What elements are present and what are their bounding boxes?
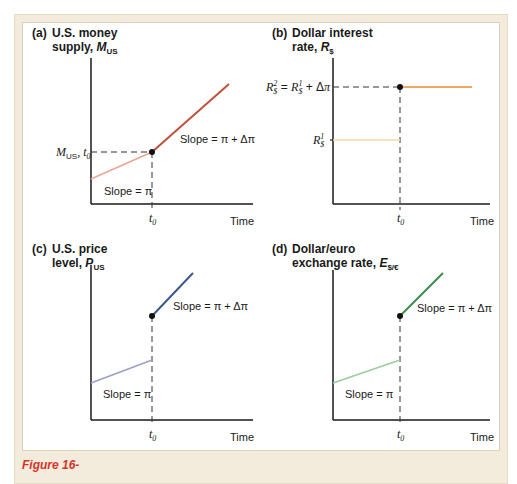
panel-b-t0-point [397,84,403,90]
panel-a-t0-point [149,149,155,155]
panel-c-slope-after-label: Slope = π + Δπ [173,300,249,312]
panel-b-x-label: Time [470,215,494,227]
panel-a-y-marker: MUS, t0 [55,145,90,161]
panel-c-price-level: (c) U.S. price level, PUS Slope = π + Δπ… [32,242,254,443]
panel-d-slope-before-label: Slope = π [345,388,394,400]
panel-a-slope-after-label: Slope = π + Δπ [180,133,256,145]
panel-d-x-tick-t0: t0 [397,427,404,443]
panel-a-slope-before-label: Slope = π [104,185,153,197]
panel-d-line-before [333,360,400,383]
panel-d-x-label: Time [470,431,494,443]
panel-c-x-label: Time [230,431,254,443]
panel-c-letter: (c) [32,242,47,256]
panel-a-x-label: Time [230,215,254,227]
panel-d-slope-after-label: Slope = π + Δπ [417,302,493,314]
panel-d-t0-point [397,313,403,319]
panel-b-title-line2: rate, R$ [292,40,334,56]
panel-d-title-line2: exchange rate, E$/€ [292,256,399,272]
panel-c-line-before [91,360,152,383]
panel-c-slope-before-label: Slope = π [103,388,152,400]
panel-d-letter: (d) [272,242,287,256]
panel-c-t0-point [149,313,155,319]
panel-d-exchange-rate: (d) Dollar/euro exchange rate, E$/€ Slop… [272,242,494,443]
panel-b-x-tick-t0: t0 [397,211,404,227]
panel-c-title-line2: level, PUS [52,256,105,272]
panel-b-interest-rate: (b) Dollar interest rate, R$ R$2 = R$1 +… [265,26,494,227]
panel-c-title-line1: U.S. price [52,242,108,256]
panel-a-letter: (a) [32,26,47,40]
panel-c-x-tick-t0: t0 [149,427,156,443]
panel-a-x-tick-t0: t0 [149,211,156,227]
panel-a-line-before [91,152,152,179]
panel-b-y-marker-low: R$1 [312,132,324,149]
panel-a-title-line1: U.S. money [52,26,118,40]
panel-b-letter: (b) [272,26,287,40]
panel-b-y-marker-high: R$2 = R$1 + Δπ [265,79,331,96]
panel-a-title-line2: supply, MUS [52,40,118,56]
panel-d-title-line1: Dollar/euro [292,242,355,256]
panel-b-title-line1: Dollar interest [292,26,373,40]
panel-a-money-supply: (a) U.S. money supply, MUS MUS, t0 Slope… [32,26,256,227]
